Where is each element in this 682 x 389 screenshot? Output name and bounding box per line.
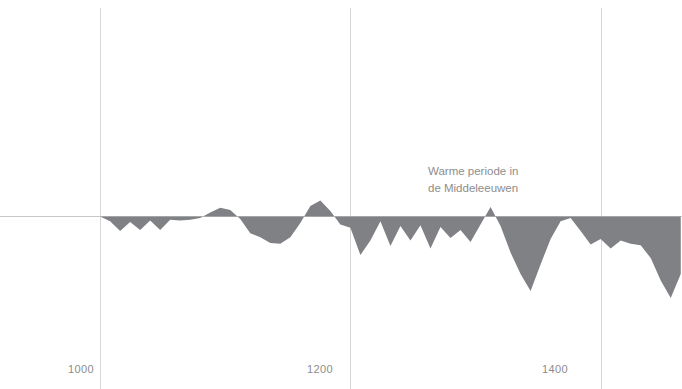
x-tick-label-1400: 1400 xyxy=(526,363,568,375)
gridlines xyxy=(101,8,602,389)
x-tick-label-1000: 1000 xyxy=(52,363,94,375)
x-tick-label-1200: 1200 xyxy=(291,363,333,375)
temperature-area-series xyxy=(100,201,681,299)
chart-plot-area xyxy=(0,0,682,389)
temperature-anomaly-chart: 1000 1200 1400 Warme periode in de Midde… xyxy=(0,0,682,389)
annotation-line-1: Warme periode in xyxy=(428,163,518,180)
warm-period-annotation: Warme periode in de Middeleeuwen xyxy=(428,163,518,197)
annotation-line-2: de Middeleeuwen xyxy=(428,180,518,197)
